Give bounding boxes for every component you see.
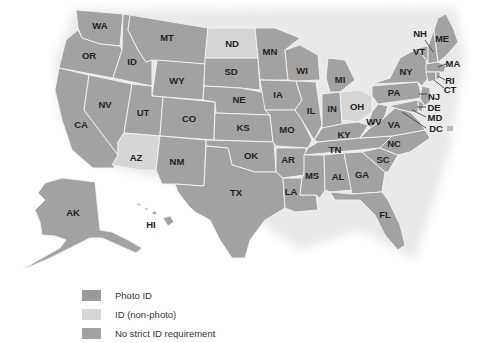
label-CO: CO	[182, 113, 196, 124]
label-HI: HI	[146, 219, 156, 230]
label-MT: MT	[160, 32, 174, 43]
label-MS: MS	[305, 170, 319, 181]
label-WY: WY	[169, 75, 185, 86]
label-ND: ND	[225, 38, 239, 49]
label-NJ: NJ	[428, 91, 440, 102]
label-CA: CA	[74, 119, 88, 130]
label-OK: OK	[244, 150, 258, 161]
dc-swatch	[447, 126, 453, 131]
label-AK: AK	[66, 207, 80, 218]
label-WV: WV	[366, 116, 382, 127]
label-NH: NH	[413, 28, 427, 39]
label-WA: WA	[92, 20, 107, 31]
label-NY: NY	[399, 66, 413, 77]
us-map: WA OR CA ID NV MT WY UT AZ CO NM ND SD N…	[0, 0, 479, 280]
label-AZ: AZ	[130, 152, 143, 163]
label-SD: SD	[224, 66, 237, 77]
legend-label-non-photo-id: ID (non-photo)	[115, 309, 176, 320]
label-KY: KY	[337, 129, 351, 140]
legend-swatch-non-photo-id	[82, 309, 101, 320]
label-TX: TX	[230, 187, 243, 198]
label-OH: OH	[350, 101, 364, 112]
label-OR: OR	[82, 50, 96, 61]
label-IA: IA	[273, 89, 283, 100]
label-PA: PA	[388, 87, 401, 98]
label-AL: AL	[332, 171, 345, 182]
legend-label-no-strict-id: No strict ID requirement	[115, 328, 215, 339]
label-MI: MI	[335, 74, 346, 85]
label-MO: MO	[279, 124, 294, 135]
label-LA: LA	[285, 186, 298, 197]
label-WI: WI	[296, 65, 308, 76]
label-VT: VT	[413, 46, 425, 57]
label-NC: NC	[387, 138, 401, 149]
label-SC: SC	[376, 154, 389, 165]
legend-swatch-no-strict-id	[82, 328, 101, 339]
label-KS: KS	[236, 122, 249, 133]
label-UT: UT	[137, 107, 150, 118]
label-IN: IN	[327, 103, 337, 114]
label-CT: CT	[444, 84, 457, 95]
label-AR: AR	[281, 154, 295, 165]
label-MA: MA	[446, 58, 461, 69]
label-ID: ID	[127, 56, 137, 67]
label-MN: MN	[263, 46, 278, 57]
legend-label-photo-id: Photo ID	[115, 290, 152, 301]
label-NM: NM	[170, 156, 185, 167]
label-NV: NV	[98, 99, 112, 110]
label-ME: ME	[435, 33, 449, 44]
label-GA: GA	[355, 169, 369, 180]
legend-swatch-photo-id	[82, 290, 101, 301]
label-IL: IL	[307, 105, 316, 116]
label-VA: VA	[388, 119, 401, 130]
legend: Photo ID ID (non-photo) No strict ID req…	[82, 286, 215, 343]
label-TN: TN	[329, 144, 342, 155]
state-AK[interactable]	[22, 178, 142, 270]
label-NE: NE	[232, 94, 245, 105]
label-FL: FL	[379, 209, 391, 220]
legend-item-photo-id: Photo ID	[82, 286, 215, 305]
legend-item-non-photo-id: ID (non-photo)	[82, 305, 215, 324]
legend-item-no-strict-id: No strict ID requirement	[82, 324, 215, 343]
label-MD: MD	[428, 112, 443, 123]
label-DC: DC	[429, 123, 443, 134]
